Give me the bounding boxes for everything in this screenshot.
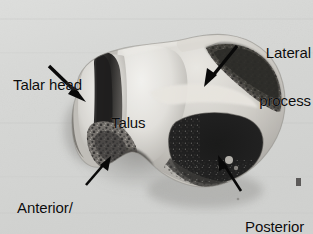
label-anterior-middle-facets: Anterior/ middle facets xyxy=(17,168,104,234)
anatomy-figure: Talar head Talus Lateral process Anterio… xyxy=(0,0,313,234)
label-lateral-process: Lateral process xyxy=(219,13,311,141)
label-talar-head-line-1: Talar head xyxy=(13,77,82,93)
label-lateral-process-line-1: Lateral xyxy=(219,45,311,61)
label-posterior-facet: Posterior facet xyxy=(245,187,304,234)
label-talus-line-1: Talus xyxy=(111,115,146,131)
label-posterior-facet-line-1: Posterior xyxy=(245,219,304,234)
label-talus: Talus xyxy=(111,83,146,163)
label-lateral-process-line-2: process xyxy=(219,93,311,109)
label-anterior-middle-facets-line-1: Anterior/ xyxy=(17,200,104,216)
label-talar-head: Talar head xyxy=(13,45,82,125)
